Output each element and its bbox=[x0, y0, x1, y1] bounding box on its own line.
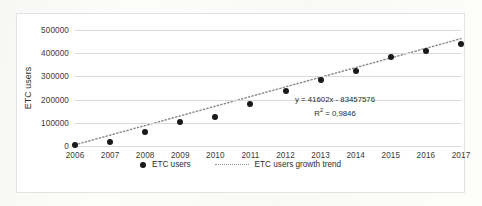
x-axis-tick-label: 2010 bbox=[206, 151, 225, 160]
gridline bbox=[75, 100, 461, 101]
data-point bbox=[318, 77, 324, 83]
chart-container: ETC users 010000020000030000040000050000… bbox=[16, 13, 465, 193]
gridline bbox=[75, 123, 461, 124]
y-axis-tick-label: 100000 bbox=[41, 118, 69, 127]
trendline-equation-annotation: y = 41602x - 83457576 R2 = 0,9846 bbox=[275, 94, 395, 119]
r-squared-line: R2 = 0,9846 bbox=[275, 105, 395, 119]
x-axis-tick-label: 2012 bbox=[276, 151, 295, 160]
x-axis-tick-label: 2015 bbox=[382, 151, 401, 160]
trendline-ETC-users-growth-trend bbox=[75, 39, 461, 145]
data-point bbox=[353, 68, 359, 74]
x-axis-tick-label: 2009 bbox=[171, 151, 190, 160]
y-axis-tick-label: 0 bbox=[64, 142, 69, 151]
data-point bbox=[458, 41, 464, 47]
legend-item-etc-users: ETC users bbox=[140, 160, 191, 169]
r-squared-value: = 0,9846 bbox=[323, 109, 356, 118]
gridline bbox=[75, 146, 461, 147]
y-axis-tick-label: 500000 bbox=[41, 26, 69, 35]
y-axis-title: ETC users bbox=[23, 67, 33, 110]
x-axis-tick-label: 2014 bbox=[346, 151, 365, 160]
data-point bbox=[283, 88, 289, 94]
gridline bbox=[75, 53, 461, 54]
legend-label: ETC users bbox=[152, 160, 191, 169]
x-axis-tick-label: 2016 bbox=[417, 151, 436, 160]
gridline bbox=[75, 30, 461, 31]
x-axis-tick-label: 2008 bbox=[136, 151, 155, 160]
gridline bbox=[75, 76, 461, 77]
chart-legend: ETC users ETC users growth trend bbox=[17, 160, 464, 169]
x-axis-tick-label: 2006 bbox=[66, 151, 85, 160]
equation-line: y = 41602x - 83457576 bbox=[275, 94, 395, 105]
data-point bbox=[423, 48, 429, 54]
data-point bbox=[388, 54, 394, 60]
y-axis-tick-label: 300000 bbox=[41, 72, 69, 81]
x-axis-tick-label: 2013 bbox=[311, 151, 330, 160]
data-point bbox=[177, 119, 183, 125]
x-axis-tick-label: 2007 bbox=[101, 151, 120, 160]
legend-item-etc-users-growth-trend: ETC users growth trend bbox=[215, 160, 341, 169]
data-point bbox=[72, 142, 78, 148]
dot-marker-icon bbox=[140, 162, 146, 168]
trendline-svg bbox=[75, 30, 461, 146]
plot-area: 0100000200000300000400000500000 20062007… bbox=[75, 30, 461, 146]
data-point bbox=[107, 139, 113, 145]
x-axis-tick-label: 2017 bbox=[452, 151, 471, 160]
x-axis-tick-label: 2011 bbox=[241, 151, 259, 160]
y-axis-tick-label: 400000 bbox=[41, 49, 69, 58]
legend-label: ETC users growth trend bbox=[255, 160, 341, 169]
y-axis-tick-label: 200000 bbox=[41, 95, 69, 104]
dotted-line-marker-icon bbox=[215, 164, 249, 165]
data-point bbox=[142, 129, 148, 135]
